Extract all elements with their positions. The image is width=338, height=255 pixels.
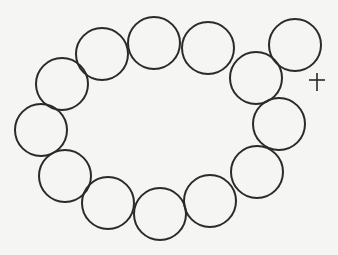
ring-circle	[182, 22, 234, 74]
cross-mark-icon	[309, 73, 325, 91]
ring-circle	[128, 17, 180, 69]
ring-circle	[15, 104, 67, 156]
ring-circle	[76, 28, 128, 80]
ring-circle	[184, 175, 236, 227]
ring-circle	[253, 98, 305, 150]
ring-circle	[134, 188, 186, 240]
circle-ring-diagram	[0, 0, 338, 255]
diagram-canvas	[0, 0, 338, 255]
outer-circle	[269, 19, 321, 71]
ring-circle	[231, 146, 283, 198]
ring-circle	[36, 58, 88, 110]
ring-circle	[39, 150, 91, 202]
